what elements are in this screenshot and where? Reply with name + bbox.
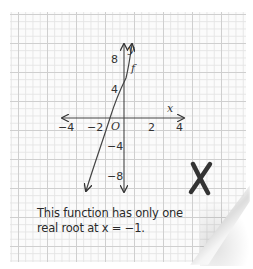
y-tick-label: 4: [111, 83, 118, 96]
caption-line-2: real root at x = −1.: [37, 221, 217, 236]
function-label: f: [130, 62, 137, 75]
incorrect-x-mark-icon: [186, 160, 216, 196]
x-axis-label: x: [167, 102, 174, 115]
y-tick-label: 8: [111, 53, 118, 66]
x-tick-label: −2: [87, 121, 103, 134]
origin-label: O: [111, 120, 120, 133]
y-tick-label: −4: [107, 140, 123, 153]
x-tick-label: 2: [148, 121, 155, 134]
x-tick-label: −4: [58, 121, 74, 134]
y-tick-label: −8: [107, 170, 123, 183]
x-tick-label: 4: [176, 121, 183, 134]
caption-line-1: This function has only one: [37, 206, 217, 221]
caption: This function has only one real root at …: [37, 206, 217, 236]
y-axis-label: y: [127, 43, 135, 56]
